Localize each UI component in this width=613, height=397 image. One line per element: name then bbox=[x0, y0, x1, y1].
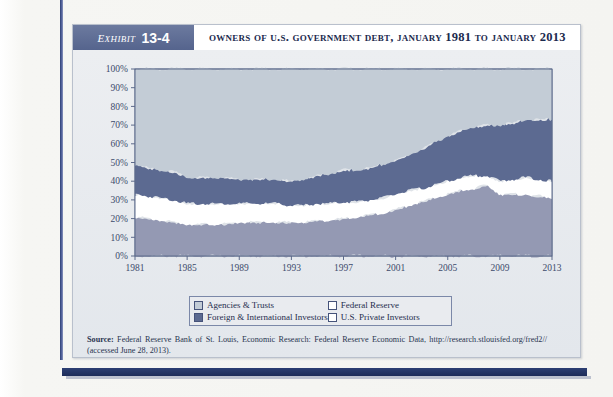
y-tick-label: 50% bbox=[111, 158, 129, 168]
legend-swatch-foreign-investors bbox=[194, 313, 203, 322]
page-bottom-rule bbox=[62, 368, 587, 376]
legend-swatch-us-private-investors bbox=[328, 313, 337, 322]
legend-item-foreign-investors: Foreign & International Investors bbox=[194, 311, 328, 323]
legend-label-federal-reserve: Federal Reserve bbox=[341, 300, 399, 310]
y-tick-label: 40% bbox=[111, 176, 129, 186]
chart-legend: Agencies & Trusts Federal Reserve Foreig… bbox=[189, 296, 452, 326]
y-tick-label: 30% bbox=[111, 195, 129, 205]
exhibit-title: Owners of U.S. Government Debt, January … bbox=[209, 30, 566, 45]
x-tick-label: 2001 bbox=[386, 263, 405, 273]
y-tick-label: 100% bbox=[106, 64, 128, 74]
x-tick-label: 1989 bbox=[230, 263, 249, 273]
legend-swatch-federal-reserve bbox=[328, 301, 337, 310]
exhibit-tag: Exhibit 13-4 bbox=[73, 25, 196, 50]
y-tick-label: 90% bbox=[111, 83, 129, 93]
y-tick-label: 80% bbox=[111, 102, 129, 112]
page-spine-rule bbox=[60, 0, 63, 360]
exhibit-title-bar: Owners of U.S. Government Debt, January … bbox=[196, 25, 580, 50]
legend-item-us-private-investors: U.S. Private Investors bbox=[328, 311, 447, 323]
x-tick-label: 1993 bbox=[282, 263, 301, 273]
exhibit-body: 0%10%20%30%40%50%60%70%80%90%100%1981198… bbox=[73, 50, 580, 357]
y-tick-label: 20% bbox=[111, 214, 129, 224]
y-tick-label: 10% bbox=[111, 233, 129, 243]
legend-label-us-private-investors: U.S. Private Investors bbox=[341, 312, 420, 322]
legend-item-federal-reserve: Federal Reserve bbox=[328, 299, 447, 311]
exhibit-tag-number: 13-4 bbox=[142, 30, 170, 46]
x-tick-label: 2005 bbox=[438, 263, 457, 273]
legend-label-agencies-trusts: Agencies & Trusts bbox=[207, 300, 274, 310]
stacked-area-chart: 0%10%20%30%40%50%60%70%80%90%100%1981198… bbox=[87, 56, 565, 291]
x-tick-label: 1985 bbox=[178, 263, 197, 273]
y-tick-label: 0% bbox=[115, 251, 128, 261]
exhibit-box: Exhibit 13-4 Owners of U.S. Government D… bbox=[72, 24, 581, 358]
exhibit-tag-word: Exhibit bbox=[97, 29, 135, 46]
legend-label-foreign-investors: Foreign & International Investors bbox=[207, 312, 328, 322]
source-label: Source: bbox=[87, 335, 114, 344]
x-tick-label: 2013 bbox=[543, 263, 562, 273]
chart-area: 0%10%20%30%40%50%60%70%80%90%100%1981198… bbox=[87, 56, 565, 291]
x-tick-label: 1997 bbox=[334, 263, 353, 273]
legend-swatch-agencies-trusts bbox=[194, 301, 203, 310]
source-text: Federal Reserve Bank of St. Louis, Econo… bbox=[87, 335, 547, 355]
x-tick-label: 1981 bbox=[126, 263, 145, 273]
y-tick-label: 60% bbox=[111, 139, 129, 149]
legend-item-agencies-trusts: Agencies & Trusts bbox=[194, 299, 328, 311]
exhibit-header: Exhibit 13-4 Owners of U.S. Government D… bbox=[73, 25, 580, 50]
exhibit-page: Exhibit 13-4 Owners of U.S. Government D… bbox=[0, 0, 613, 397]
y-tick-label: 70% bbox=[111, 120, 129, 130]
x-tick-label: 2009 bbox=[490, 263, 509, 273]
source-paragraph: Source: Federal Reserve Bank of St. Loui… bbox=[87, 334, 547, 356]
source-note: Source: Federal Reserve Bank of St. Loui… bbox=[87, 334, 547, 356]
